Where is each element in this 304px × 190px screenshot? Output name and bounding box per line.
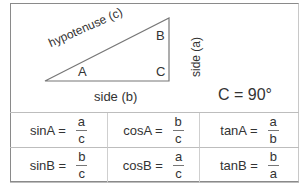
tan-b-cell: tanB = ba bbox=[200, 148, 299, 183]
function-label: tanB = bbox=[220, 158, 258, 173]
fraction: ab bbox=[268, 115, 279, 146]
fraction: bc bbox=[76, 150, 87, 181]
function-label: sinB = bbox=[30, 158, 67, 173]
cos-a-cell: cosA = bc bbox=[108, 113, 200, 148]
right-angle-note: C = 90° bbox=[218, 86, 272, 104]
vertex-b-label: B bbox=[156, 28, 165, 43]
vertex-c-label: C bbox=[156, 64, 165, 79]
sin-b-cell: sinB = bc bbox=[10, 148, 108, 183]
fraction: ba bbox=[268, 150, 279, 181]
cos-b-cell: cosB = ac bbox=[108, 148, 200, 183]
denominator: a bbox=[270, 166, 277, 181]
sin-a-cell: sinA = ac bbox=[10, 113, 108, 148]
function-label: cosB = bbox=[123, 158, 163, 173]
numerator: a bbox=[173, 150, 184, 166]
fraction: bc bbox=[173, 115, 184, 146]
denominator: c bbox=[78, 131, 85, 146]
vertex-a-label: A bbox=[78, 64, 87, 79]
denominator: c bbox=[78, 166, 85, 181]
numerator: a bbox=[268, 115, 279, 131]
denominator: c bbox=[175, 131, 182, 146]
numerator: b bbox=[268, 150, 279, 166]
numerator: a bbox=[76, 115, 87, 131]
fraction: ac bbox=[173, 150, 184, 181]
side-a-label: side (a) bbox=[189, 37, 203, 77]
function-label: cosA = bbox=[123, 123, 162, 138]
denominator: c bbox=[175, 166, 182, 181]
denominator: b bbox=[270, 131, 277, 146]
right-triangle-diagram: hypotenuse (c) side (a) A B C side (b) C… bbox=[0, 0, 304, 112]
side-b-label: side (b) bbox=[94, 89, 137, 104]
function-label: tanA = bbox=[220, 123, 257, 138]
trig-ratio-table: sinA = ac cosA = bc tanA = ab sinB = bc … bbox=[10, 112, 299, 184]
numerator: b bbox=[173, 115, 184, 131]
fraction: ac bbox=[76, 115, 87, 146]
tan-a-cell: tanA = ab bbox=[200, 113, 299, 148]
function-label: sinA = bbox=[30, 123, 66, 138]
numerator: b bbox=[76, 150, 87, 166]
